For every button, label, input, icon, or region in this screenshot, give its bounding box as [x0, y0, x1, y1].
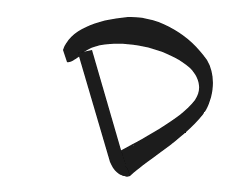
letter-d-bowl	[63, 17, 213, 176]
brush-letter-d	[0, 0, 229, 195]
letter-d-stem	[78, 50, 130, 176]
image-canvas: Brush-stroke letter D	[0, 0, 229, 195]
